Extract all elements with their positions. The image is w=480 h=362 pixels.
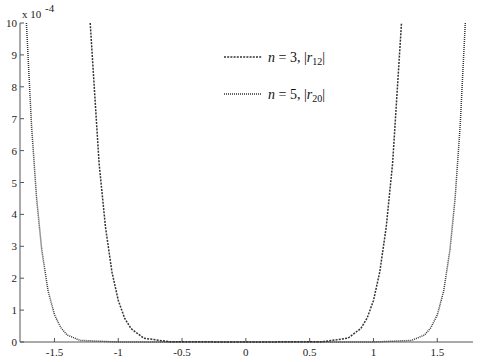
axes [20,23,473,342]
y-tick-label: 0 [12,336,18,348]
legend-label-n5: n = 5, |r20| [268,87,325,104]
legend-label-n3: n = 3, |r12| [268,50,325,67]
y-tick-label: 3 [12,240,18,252]
y-tick-label: 10 [6,17,18,29]
y-multiplier-base: x 10 [22,8,42,20]
series-line-1 [26,23,465,342]
y-tick-label: 1 [12,304,18,316]
series-line-0 [90,23,401,342]
y-tick-label: 9 [12,49,18,61]
legend: n = 3, |r12| n = 5, |r20| [224,50,325,104]
x-tick-label: 0.5 [303,346,317,358]
y-tick-label: 7 [12,113,18,125]
y-multiplier-exponent: -4 [45,2,55,14]
y-tick-label: 6 [12,145,18,157]
y-tick-label: 4 [12,208,18,220]
y-tick-label: 5 [12,177,18,189]
series-lines [26,23,465,342]
y-multiplier: x 10 -4 [22,2,55,20]
x-tick-label: 1 [371,346,377,358]
x-tick-label: 1.5 [430,346,444,358]
x-tick-label: -0.5 [173,346,191,358]
tick-labels: -1.5-1-0.500.511.5012345678910 [6,17,445,358]
line-chart: -1.5-1-0.500.511.5012345678910 x 10 -4 n… [0,0,480,362]
y-tick-label: 8 [12,81,18,93]
x-tick-label: 0 [243,346,249,358]
y-tick-label: 2 [12,272,18,284]
x-tick-label: -1 [114,346,123,358]
x-tick-label: -1.5 [46,346,64,358]
